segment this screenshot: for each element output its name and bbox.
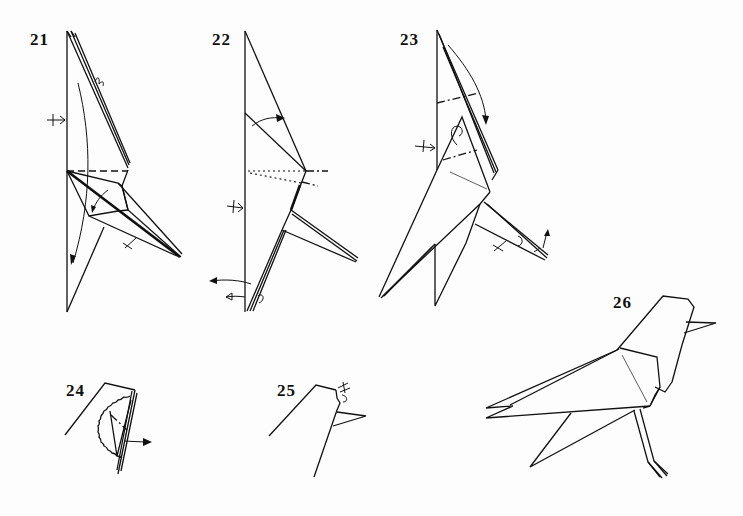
pull-arrow-icon xyxy=(124,438,152,446)
diagram-artwork xyxy=(0,0,743,516)
hinge-mark-icon xyxy=(123,238,136,249)
step-24-diagram xyxy=(65,383,152,474)
step-23-diagram xyxy=(379,30,550,306)
step-25-diagram xyxy=(269,382,366,477)
push-arrow-icon xyxy=(227,200,243,213)
push-arrow-icon xyxy=(415,140,435,152)
step-22-diagram xyxy=(209,31,358,312)
push-arrow-icon xyxy=(47,114,65,126)
step-26-finished-model xyxy=(486,296,716,478)
step-21-diagram xyxy=(47,31,182,312)
beak xyxy=(333,412,366,426)
crimp-mark-icon xyxy=(338,382,350,402)
hinge-mark-icon xyxy=(493,236,522,251)
fold-arrow-icon xyxy=(448,45,486,120)
diagram-page: 21 22 23 24 25 26 xyxy=(0,0,743,516)
